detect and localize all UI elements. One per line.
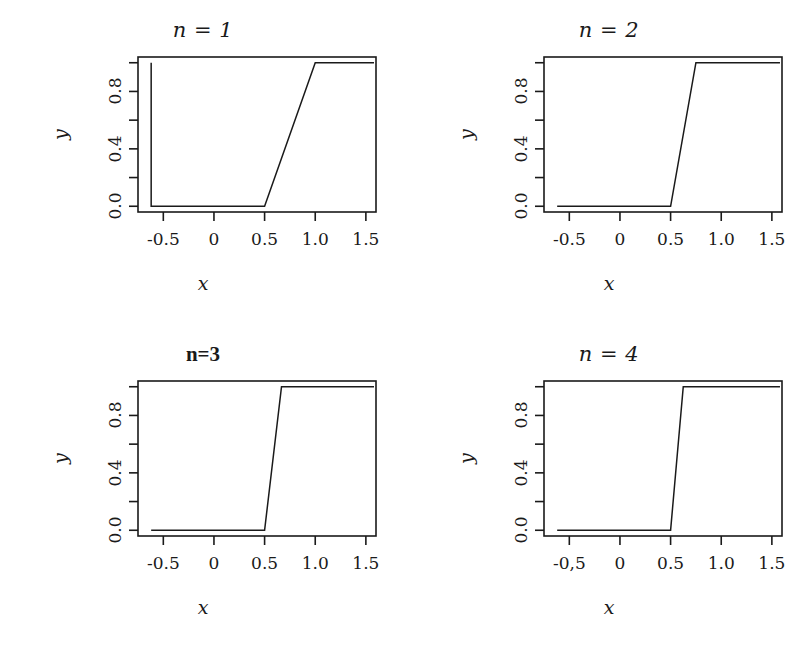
- y-tick-label: 0.0: [107, 176, 125, 236]
- x-axis-label: x: [406, 598, 812, 617]
- y-tick-label: 0.8: [107, 385, 125, 445]
- plot-frame: [544, 381, 782, 536]
- x-tick-label: 1.5: [326, 231, 406, 248]
- plot-frame: [138, 381, 376, 536]
- x-axis-label: x: [406, 274, 812, 293]
- x-tick-label: 1.5: [732, 231, 812, 248]
- y-axis-label: y: [457, 104, 476, 164]
- chart-panel-2: n = 2-0.500.51.01.50.00.40.8xy: [406, 0, 812, 323]
- panel-title: n=3: [0, 344, 406, 365]
- panel-title: n = 1: [0, 20, 406, 41]
- y-axis-label: y: [51, 428, 70, 488]
- y-tick-label: 0.0: [107, 500, 125, 560]
- panel-title: n = 4: [406, 344, 812, 365]
- y-tick-label: 0.0: [513, 500, 531, 560]
- y-tick-label: 0.8: [513, 385, 531, 445]
- y-tick-label: 0.4: [107, 443, 125, 503]
- y-tick-label: 0.4: [107, 119, 125, 179]
- chart-panel-3: n=3-0.500.51.01.50.00.40.8xy: [0, 324, 406, 647]
- y-axis-ticks: [535, 387, 544, 531]
- plot-frame: [138, 57, 376, 212]
- data-line: [151, 387, 374, 531]
- chart-panel-4: n = 4-0,500.51.01.50.00.40.8xy: [406, 324, 812, 647]
- x-axis-label: x: [0, 598, 406, 617]
- x-axis-label: x: [0, 274, 406, 293]
- y-tick-label: 0.0: [513, 176, 531, 236]
- y-axis-label: y: [457, 428, 476, 488]
- x-axis-ticks: [163, 536, 366, 545]
- y-tick-label: 0.4: [513, 443, 531, 503]
- figure-panel-grid: n = 1-0.500.51.01.50.00.40.8xyn = 2-0.50…: [0, 0, 812, 647]
- y-tick-label: 0.4: [513, 119, 531, 179]
- x-tick-label: 1.5: [326, 555, 406, 572]
- data-line: [151, 63, 374, 207]
- y-axis-ticks: [535, 63, 544, 207]
- y-axis-ticks: [129, 387, 138, 531]
- x-tick-label: 1.5: [732, 555, 812, 572]
- plot-frame: [544, 57, 782, 212]
- data-line: [557, 387, 780, 531]
- y-axis-ticks: [129, 63, 138, 207]
- x-axis-ticks: [569, 536, 772, 545]
- x-axis-ticks: [163, 212, 366, 221]
- panel-title: n = 2: [406, 20, 812, 41]
- y-tick-label: 0.8: [107, 61, 125, 121]
- data-line: [557, 63, 780, 207]
- y-axis-label: y: [51, 104, 70, 164]
- chart-panel-1: n = 1-0.500.51.01.50.00.40.8xy: [0, 0, 406, 323]
- x-axis-ticks: [569, 212, 772, 221]
- y-tick-label: 0.8: [513, 61, 531, 121]
